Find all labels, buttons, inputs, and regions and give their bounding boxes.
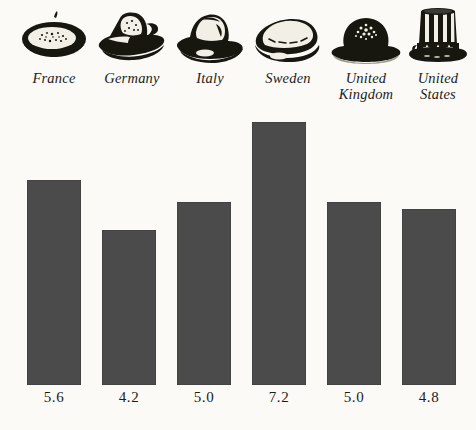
uncle-sam-top-hat-icon	[396, 0, 476, 64]
bar-rect	[27, 180, 81, 385]
bar-italy	[177, 202, 231, 385]
bar-rect	[177, 202, 231, 385]
value-label-united-states: 4.8	[387, 389, 471, 406]
bar-rect	[402, 209, 456, 385]
country-label: Sweden	[246, 70, 330, 86]
bar-chart-figure: France Germany	[0, 0, 476, 430]
bar-rect	[327, 202, 381, 385]
country-label: Italy	[168, 70, 252, 86]
value-labels-row: 5.6 4.2 5.0 7.2 5.0 4.8	[0, 385, 476, 415]
country-head-united-states: United States	[396, 0, 476, 118]
country-header-row: France Germany	[0, 0, 476, 118]
country-label: France	[12, 70, 96, 86]
flat-cap-hat-icon	[246, 0, 330, 64]
bar-united-kingdom	[327, 202, 381, 385]
country-label: Germany	[90, 70, 174, 86]
country-head-italy: Italy	[168, 0, 252, 118]
bar-rect	[102, 230, 156, 385]
bar-united-states	[402, 209, 456, 385]
bar-rect	[252, 122, 306, 385]
tyrolean-hat-icon	[90, 0, 174, 64]
value-label-sweden: 7.2	[237, 389, 321, 406]
beret-hat-icon	[12, 0, 96, 64]
plot-area	[0, 118, 476, 385]
country-head-germany: Germany	[90, 0, 174, 118]
value-label-united-kingdom: 5.0	[312, 389, 396, 406]
bar-france	[27, 180, 81, 385]
country-head-france: France	[12, 0, 96, 118]
fedora-hat-icon	[168, 0, 252, 64]
bar-sweden	[252, 122, 306, 385]
value-label-france: 5.6	[12, 389, 96, 406]
value-label-italy: 5.0	[162, 389, 246, 406]
country-label: United States	[396, 70, 476, 102]
value-label-germany: 4.2	[87, 389, 171, 406]
country-head-sweden: Sweden	[246, 0, 330, 118]
bar-germany	[102, 230, 156, 385]
